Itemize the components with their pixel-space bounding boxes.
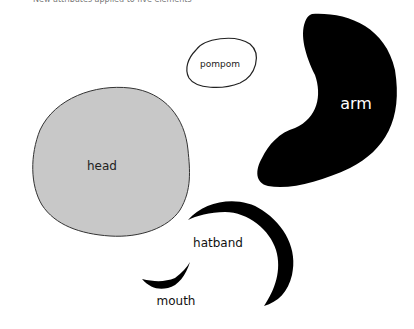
arm-label: arm — [340, 94, 372, 113]
hatband-label: hatband — [193, 236, 243, 250]
pompom-label: pompom — [200, 59, 240, 69]
head-label: head — [87, 159, 117, 173]
mouth-shape[interactable]: mouth — [142, 262, 195, 308]
mouth-label: mouth — [157, 294, 196, 308]
hatband-shape[interactable]: hatband — [188, 201, 293, 306]
arm-shape[interactable]: arm — [257, 14, 397, 187]
head-shape[interactable]: head — [33, 87, 190, 236]
pompom-shape[interactable]: pompom — [187, 38, 257, 87]
drawing-canvas: pompom arm head hatband mouth — [0, 0, 414, 329]
